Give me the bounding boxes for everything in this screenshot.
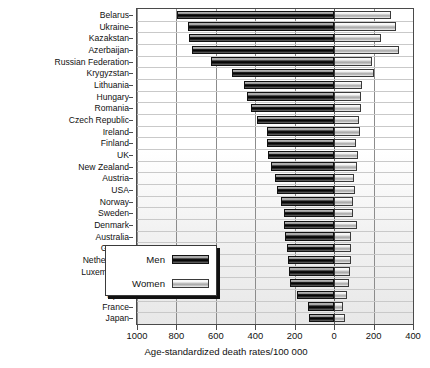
x-axis-tick-label: 400 [247,330,263,341]
legend-label-women: Women [132,278,165,289]
y-axis-tick [129,318,133,319]
bar-men [289,267,334,275]
legend-label-men: Men [146,254,165,265]
bar-women [334,197,353,205]
bar-men [267,139,334,147]
y-axis-label: Norway [100,197,129,207]
y-axis-tick [129,143,133,144]
bar-men [267,127,334,135]
bar-women [334,279,349,287]
y-axis-tick [129,132,133,133]
chart-container: BelarusUkraineKazakstanAzerbaijanRussian… [0,0,430,368]
y-axis-label: Australia [96,232,129,242]
bar-men [251,104,334,112]
bar-men [177,11,334,19]
bar-women [334,267,350,275]
y-axis-label: Krygyzstan [86,68,129,78]
x-axis-tick-label: 200 [287,330,303,341]
bar-women [334,116,359,124]
y-axis-tick [129,15,133,16]
bar-men [275,174,334,182]
y-axis-label: Ukraine [99,22,129,32]
bar-men [189,34,334,42]
bar-women [334,81,362,89]
bar-men [247,92,334,100]
bar-women [334,314,345,322]
gridline-horizontal [137,231,413,232]
chart-legend: Men Women [105,245,217,296]
legend-item-women: Women [106,273,216,293]
bar-women [334,291,347,299]
y-axis-tick [129,167,133,168]
bar-men [297,291,335,299]
y-axis-label: Finland [101,138,129,148]
x-axis-tick-label: 400 [405,330,421,341]
bar-men [188,22,334,30]
legend-item-men: Men [106,249,216,269]
y-axis-label: Austria [102,173,129,183]
bar-women [334,92,361,100]
gridline-horizontal [137,312,413,313]
bar-men [192,46,334,54]
bar-men [287,244,334,252]
y-axis-label: Hungary [97,92,129,102]
bar-women [334,221,357,229]
bar-men [285,232,334,240]
y-axis-label: Czech Republic [69,115,129,125]
y-axis-label: UK [117,150,129,160]
bar-women [334,209,353,217]
y-axis-tick [129,97,133,98]
x-axis-tick-label: 200 [366,330,382,341]
bar-men [284,209,334,217]
x-axis-tick-label: 600 [208,330,224,341]
gridline-horizontal [137,207,413,208]
bar-men [288,256,334,264]
bar-men [281,197,334,205]
y-axis-label: USA [111,185,129,195]
bar-women [334,46,399,54]
bar-men [290,279,334,287]
y-axis-label: Sweden [98,208,129,218]
y-axis-tick [129,62,133,63]
bar-men [268,151,334,159]
legend-swatch-women [172,279,209,288]
y-axis-label: Azerbaijan [88,45,129,55]
bar-women [334,256,351,264]
bar-men [277,186,334,194]
x-axis: 10008006004002000200400 [136,325,414,345]
y-axis-label: France [102,302,129,312]
y-axis-tick [129,190,133,191]
bar-women [334,22,396,30]
y-axis-label: Kazakstan [89,33,129,43]
bar-women [334,11,391,19]
bar-women [334,302,343,310]
gridline-horizontal [137,301,413,302]
bar-women [334,244,351,252]
bar-men [308,302,335,310]
y-axis-tick [129,50,133,51]
x-axis-tick-label: 800 [169,330,185,341]
y-axis-label: New Zealand [78,162,129,172]
bar-men [211,57,334,65]
bar-women [334,186,355,194]
y-axis-tick [129,178,133,179]
y-axis-tick [129,108,133,109]
y-axis-tick [129,225,133,226]
y-axis-tick [129,237,133,238]
y-axis-tick [129,213,133,214]
bar-men [309,314,335,322]
bar-women [334,127,360,135]
y-axis-label: Belarus [100,10,129,20]
bar-women [334,174,354,182]
gridline-horizontal [137,242,413,243]
bar-women [334,151,358,159]
x-axis-title-text: Age-standardized death rates/100 000 [144,346,307,357]
bar-men [244,81,334,89]
x-axis-title: Age-standardized death rates/100 000 [0,346,430,357]
bar-men [284,221,334,229]
gridline-horizontal [137,184,413,185]
bar-women [334,232,351,240]
bar-men [271,162,334,170]
y-axis-tick [129,307,133,308]
y-axis-label: Romania [95,103,129,113]
